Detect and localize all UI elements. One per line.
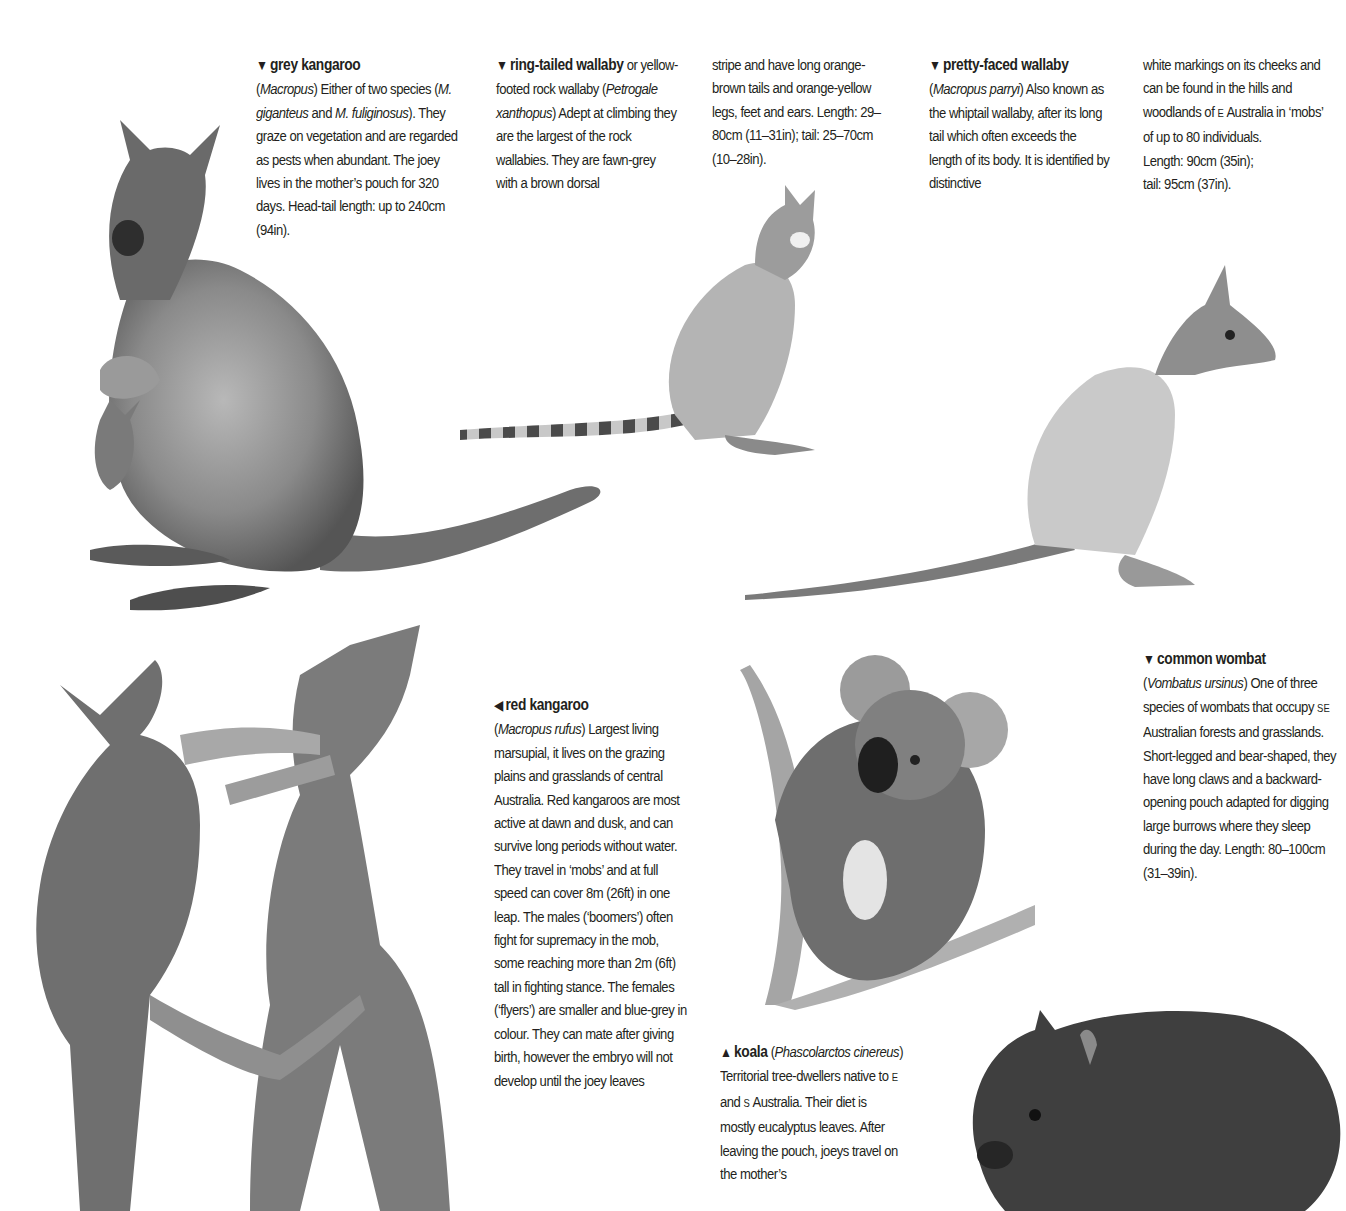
entry-red-kangaroo: ◀red kangaroo (Macropus rufus) Largest l…	[494, 693, 690, 1092]
entry-title: red kangaroo	[506, 696, 589, 713]
small-caps-text: E	[892, 1071, 898, 1083]
entry-koala: ▲koala (Phascolarctos cinereus) Territor…	[720, 1040, 904, 1185]
down-arrow-icon: ▼	[929, 57, 940, 73]
entry-title: grey kangaroo	[270, 56, 360, 73]
body-text: Australian forests and grasslands. Short…	[1143, 723, 1336, 880]
down-arrow-icon: ▼	[496, 57, 507, 73]
entry-ring-tailed-wallaby: ▼ring-tailed wallaby or yellow-footed ro…	[496, 53, 678, 194]
red-kangaroos-boxing-illustration	[0, 625, 470, 1211]
latin-name: Vombatus ursinus	[1147, 674, 1243, 691]
entry-pretty-faced-wallaby-continued: white markings on its cheeks and can be …	[1143, 53, 1334, 195]
small-caps-text: SE	[1317, 702, 1330, 714]
body-text: stripe and have long orange-brown tails …	[712, 56, 881, 167]
pretty-faced-wallaby-illustration	[735, 265, 1285, 605]
latin-name: Macropus parryi	[933, 80, 1020, 97]
entry-title: common wombat	[1157, 650, 1266, 667]
latin-name: M. fuliginosus	[335, 104, 408, 121]
latin-name: Phascolarctos cinereus	[775, 1043, 900, 1060]
body-text: and	[308, 104, 335, 121]
length-text: Length: 90cm (35in);	[1143, 152, 1253, 169]
up-arrow-icon: ▲	[720, 1044, 731, 1060]
entry-grey-kangaroo: ▼grey kangaroo (Macropus) Either of two …	[256, 53, 462, 241]
latin-name: Macropus	[260, 80, 314, 97]
common-wombat-illustration	[965, 1005, 1346, 1211]
latin-name: Macropus rufus	[498, 720, 581, 737]
koala-illustration	[735, 650, 1035, 1010]
entry-title: koala	[734, 1043, 767, 1060]
body-text: ) Either of two species (	[313, 80, 438, 97]
body-text: ). They graze on vegetation and are rega…	[256, 104, 458, 238]
entry-ring-tailed-wallaby-continued: stripe and have long orange-brown tails …	[712, 53, 894, 170]
body-text: ) Largest living marsupial, it lives on …	[494, 720, 687, 1088]
body-text: and	[720, 1093, 744, 1110]
tail-length-text: tail: 95cm (37in).	[1143, 175, 1231, 192]
entry-title: ring-tailed wallaby	[510, 56, 624, 73]
entry-title: pretty-faced wallaby	[943, 56, 1068, 73]
down-arrow-icon: ▼	[256, 57, 267, 73]
left-arrow-icon: ◀	[494, 697, 503, 713]
entry-pretty-faced-wallaby: ▼pretty-faced wallaby (Macropus parryi) …	[929, 53, 1111, 194]
entry-common-wombat: ▼common wombat (Vombatus ursinus) One of…	[1143, 647, 1343, 884]
down-arrow-icon: ▼	[1143, 651, 1154, 667]
